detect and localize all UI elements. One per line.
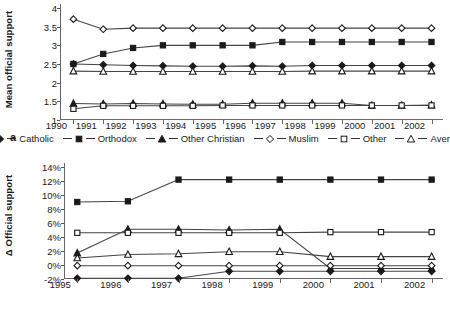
panel-a-y-axis-label: Mean official support — [1, 0, 16, 118]
legend-line-left — [146, 138, 155, 139]
panel-a-label: a — [10, 131, 16, 143]
y-tick-label: 1.5 — [44, 96, 57, 107]
data-point-marker-open-diamond — [276, 262, 283, 269]
x-tick-label: 1997 — [151, 279, 172, 290]
data-point-marker-open-square — [369, 103, 374, 108]
x-tick-label: 2002 — [404, 120, 425, 131]
data-point-marker-filled-square — [369, 39, 374, 44]
data-point-marker-filled-square — [125, 199, 130, 204]
legend-marker-filled-triangle — [157, 134, 167, 144]
legend-item-other-christian[interactable]: Other Christian — [146, 133, 245, 144]
y-tick-label: 3.5 — [44, 21, 57, 32]
figure-two-panel-line-charts: Mean official support 11.522.533.54 1990… — [0, 0, 450, 318]
y-tick-mark — [61, 237, 64, 238]
x-tick-label: 1993 — [135, 120, 156, 131]
data-point-marker-open-square — [125, 230, 130, 235]
panel-a-legend: CatholicOrthodoxOther ChristianMuslimOth… — [0, 133, 450, 144]
x-tick-label: 2001 — [353, 279, 374, 290]
x-tick-label: 1999 — [314, 120, 335, 131]
panel-a-x-tick-labels: 1990199119921993199419951996199719981999… — [43, 120, 448, 133]
data-point-marker-filled-square — [75, 199, 80, 204]
data-point-marker-open-square — [250, 103, 255, 108]
data-point-marker-open-diamond — [309, 25, 316, 32]
legend-marker-filled-square — [74, 134, 84, 144]
data-point-marker-open-diamond — [175, 262, 182, 269]
legend-marker-open-triangle — [406, 134, 416, 144]
data-point-marker-open-diamond — [100, 26, 107, 33]
data-point-marker-open-square — [378, 230, 383, 235]
x-tick-label: 1995 — [195, 120, 216, 131]
y-tick-mark — [61, 251, 64, 252]
x-tick-label: 1999 — [252, 279, 273, 290]
data-point-marker-open-square — [75, 230, 80, 235]
x-tick-label: 2000 — [344, 120, 365, 131]
y-tick-mark — [61, 181, 64, 182]
legend-item-muslim[interactable]: Muslim — [254, 133, 319, 144]
x-tick-label: 1992 — [106, 120, 127, 131]
data-point-marker-filled-square — [328, 177, 333, 182]
data-point-marker-open-diamond — [339, 25, 346, 32]
legend-line-left — [254, 138, 263, 139]
x-tick-label: 1990 — [46, 120, 67, 131]
y-tick-label: 2% — [47, 246, 61, 257]
data-point-marker-open-diamond — [279, 25, 286, 32]
x-tick-label: 1997 — [255, 120, 276, 131]
series-markers-muslim — [70, 16, 435, 33]
data-point-marker-open-square — [280, 103, 285, 108]
data-point-marker-filled-square — [378, 177, 383, 182]
x-tick-label: 1995 — [50, 279, 71, 290]
legend-item-other[interactable]: Other — [328, 133, 387, 144]
legend-label: Orthodox — [98, 133, 137, 144]
y-tick-mark — [61, 209, 64, 210]
x-tick-label: 1991 — [76, 120, 97, 131]
data-point-marker-filled-square — [280, 39, 285, 44]
data-point-marker-filled-square — [101, 51, 106, 56]
data-point-marker-open-square — [310, 103, 315, 108]
data-point-marker-filled-square — [227, 177, 232, 182]
y-tick-label: 4% — [47, 232, 61, 243]
legend-marker-open-diamond — [265, 134, 275, 144]
data-point-marker-filled-square — [250, 43, 255, 48]
data-point-marker-open-diamond — [428, 25, 435, 32]
data-point-marker-open-diamond — [70, 16, 77, 23]
data-point-marker-filled-square — [71, 61, 76, 66]
x-tick-label: 1996 — [225, 120, 246, 131]
data-point-marker-open-square — [71, 106, 76, 111]
y-tick-label: 0% — [47, 260, 61, 271]
data-point-marker-open-diamond — [125, 262, 132, 269]
data-point-marker-open-diamond — [398, 25, 405, 32]
data-point-marker-filled-square — [176, 177, 181, 182]
y-tick-mark — [61, 167, 64, 168]
data-point-marker-filled-square — [339, 39, 344, 44]
x-tick-label: 1998 — [202, 279, 223, 290]
legend-item-catholic[interactable]: Catholic — [0, 133, 54, 144]
x-tick-label: 2002 — [404, 279, 425, 290]
panel-a-plot-area: 11.522.533.54 — [17, 8, 445, 120]
legend-item-average[interactable]: Average — [395, 133, 450, 144]
data-point-marker-open-square — [227, 230, 232, 235]
x-tick-label: 2000 — [303, 279, 324, 290]
data-point-marker-open-square — [277, 230, 282, 235]
y-tick-mark — [61, 223, 64, 224]
legend-item-orthodox[interactable]: Orthodox — [63, 133, 137, 144]
legend-line-left — [328, 138, 337, 139]
legend-line-right — [277, 138, 286, 139]
y-tick-mark — [57, 83, 60, 84]
data-point-marker-open-square — [220, 103, 225, 108]
series-markers-average — [74, 248, 435, 261]
legend-label: Average — [430, 133, 450, 144]
y-tick-label: 12% — [42, 176, 61, 187]
legend-marker-filled-diamond — [0, 134, 5, 144]
data-point-marker-open-square — [429, 230, 434, 235]
data-point-marker-open-square — [339, 103, 344, 108]
legend-label: Other — [363, 133, 387, 144]
y-tick-mark — [57, 64, 60, 65]
x-tick-label: 1998 — [285, 120, 306, 131]
y-tick-mark — [61, 195, 64, 196]
data-point-marker-open-square — [130, 103, 135, 108]
data-point-marker-open-diamond — [189, 25, 196, 32]
data-point-marker-open-square — [160, 103, 165, 108]
y-tick-mark — [57, 45, 60, 46]
legend-line-right — [169, 138, 178, 139]
legend-line-right — [418, 138, 427, 139]
